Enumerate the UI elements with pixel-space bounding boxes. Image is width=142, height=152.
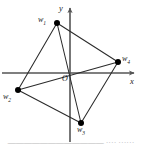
vertex-dot-w2 [15, 87, 21, 93]
x-axis-label: x [130, 77, 134, 86]
vertex-label-w1: w1 [38, 16, 46, 26]
origin-label: O [62, 75, 68, 83]
edge-w2-w3 [18, 90, 81, 123]
vertex-dot-w1 [54, 20, 60, 26]
vertex-label-w2: w2 [3, 93, 11, 103]
axes-group [2, 8, 134, 142]
vertex-label-w2-subscript: 2 [8, 97, 11, 103]
diagram-canvas [0, 0, 142, 152]
edge-w1-w2 [18, 23, 57, 90]
vertex-dot-w4 [115, 59, 121, 65]
y-axis-label: y [59, 4, 63, 13]
caption-strip: ———————————— ···· ······ [0, 142, 142, 152]
edge-w4-w1 [57, 23, 118, 62]
figure-root: w1 w2 w3 w4 x y O ———————————— ···· ····… [0, 0, 142, 152]
vertex-label-w3-subscript: 3 [82, 130, 85, 136]
vertex-label-w4-subscript: 4 [127, 59, 130, 65]
vertex-label-w3: w3 [77, 126, 85, 136]
caption-text: ———————————— ···· ······ [4, 142, 138, 147]
vertex-label-w1-subscript: 1 [43, 20, 46, 26]
vertex-label-w4: w4 [122, 55, 130, 65]
